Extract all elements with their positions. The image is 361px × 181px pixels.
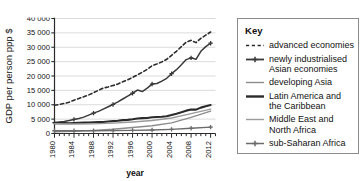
legend-item-label: Latin America and the Caribbean <box>269 91 341 112</box>
legend-item-label: developing Asia <box>269 77 332 88</box>
y-tick-label: 20 000 <box>27 72 50 81</box>
y-tick-label: 25 000 <box>27 57 50 66</box>
y-axis-tick-labels: 05 00010 00015 00020 00025 00030 00035 0… <box>27 14 50 138</box>
legend-item: newly industrialised Asian economies <box>245 54 358 75</box>
legend-item-label: advanced economies <box>269 40 354 51</box>
legend-line-swatch-icon <box>245 114 265 125</box>
x-tick-label: 2012 <box>204 141 213 158</box>
legend-items: advanced economiesnewly industrialised A… <box>245 40 358 149</box>
gridlines <box>55 19 216 120</box>
legend-line-swatch-icon <box>245 77 265 88</box>
y-axis-title: GDP per person ppp $ <box>3 28 14 124</box>
y-tick-label: 15 000 <box>27 86 50 95</box>
x-tick-label: 1980 <box>48 141 57 158</box>
y-tick-label: 5 000 <box>31 115 50 124</box>
legend-item: Middle East and North Africa <box>245 114 358 135</box>
series-newly-industrialised-asian-economies <box>52 41 213 125</box>
x-tick-label: 1984 <box>67 141 76 158</box>
chart-screenshot: 05 00010 00015 00020 00025 00030 00035 0… <box>0 0 361 181</box>
legend-item-label: sub-Saharan Africa <box>269 138 346 149</box>
x-tick-label: 2004 <box>165 141 174 158</box>
legend-line-swatch-icon <box>245 138 265 149</box>
y-tick-label: 0 <box>46 129 50 138</box>
x-axis-tick-labels: 198019841988199219962000200420082012 <box>48 141 213 158</box>
legend-line-swatch-icon <box>245 91 265 102</box>
legend-item-label: newly industrialised Asian economies <box>269 54 347 75</box>
plot-canvas: 05 00010 00015 00020 00025 00030 00035 0… <box>0 0 232 181</box>
y-tick-label: 10 000 <box>27 100 50 109</box>
gdp-per-person-line-chart: 05 00010 00015 00020 00025 00030 00035 0… <box>0 0 232 181</box>
y-tick-label: 30 000 <box>27 43 50 52</box>
x-axis-title: year <box>126 168 144 178</box>
x-tick-label: 2008 <box>184 141 193 158</box>
legend-item: developing Asia <box>245 77 358 88</box>
x-tick-label: 1992 <box>106 141 115 158</box>
x-axis-ticks <box>55 134 216 138</box>
chart-legend: Key advanced economiesnewly industrialis… <box>237 18 359 154</box>
x-tick-label: 1996 <box>126 141 135 158</box>
x-tick-label: 2000 <box>145 141 154 158</box>
x-tick-label: 1988 <box>87 141 96 158</box>
legend-line-swatch-icon <box>245 54 265 65</box>
legend-item-label: Middle East and North Africa <box>269 114 334 135</box>
legend-item: sub-Saharan Africa <box>245 138 358 149</box>
legend-item: Latin America and the Caribbean <box>245 91 358 112</box>
legend-item: advanced economies <box>245 40 358 51</box>
y-tick-label: 35 000 <box>27 28 50 37</box>
legend-line-swatch-icon <box>245 40 265 51</box>
legend-title: Key <box>245 25 358 36</box>
